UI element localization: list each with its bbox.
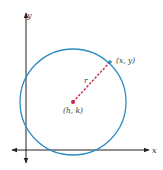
radius-label: r — [84, 76, 88, 85]
point-label: (x, y) — [116, 56, 135, 65]
center-label: (h, k) — [63, 106, 83, 115]
x-axis-label: x — [152, 146, 157, 155]
radius-line — [73, 62, 110, 102]
edge-point — [108, 60, 112, 64]
center-point — [71, 100, 75, 104]
y-axis-label: y — [26, 11, 32, 20]
circle-diagram: y x (x, y) r (h, k) — [0, 0, 163, 170]
